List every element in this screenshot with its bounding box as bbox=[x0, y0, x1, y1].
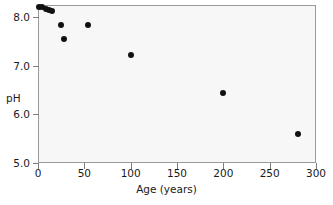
plot-area bbox=[38, 5, 316, 163]
x-tick-label: 50 bbox=[67, 168, 101, 178]
x-tick-label: 0 bbox=[21, 168, 55, 178]
scatter-chart: 5.06.07.08.0 050100150200250300 pH Age (… bbox=[0, 0, 333, 205]
x-axis-title: Age (years) bbox=[0, 184, 333, 195]
data-point bbox=[128, 52, 134, 58]
y-tick bbox=[33, 66, 39, 67]
y-tick bbox=[33, 114, 39, 115]
x-tick-label: 150 bbox=[160, 168, 194, 178]
x-tick-label: 100 bbox=[114, 168, 148, 178]
data-point bbox=[220, 90, 226, 96]
y-tick-label: 7.0 bbox=[13, 61, 30, 71]
y-tick-label: 8.0 bbox=[13, 12, 30, 22]
data-point bbox=[61, 36, 67, 42]
y-tick bbox=[33, 17, 39, 18]
x-tick-label: 200 bbox=[206, 168, 240, 178]
y-tick-label: 5.0 bbox=[13, 158, 30, 168]
y-axis-title: pH bbox=[6, 93, 21, 104]
y-tick-label: 6.0 bbox=[13, 109, 30, 119]
x-tick-label: 300 bbox=[299, 168, 333, 178]
x-tick-label: 250 bbox=[253, 168, 287, 178]
